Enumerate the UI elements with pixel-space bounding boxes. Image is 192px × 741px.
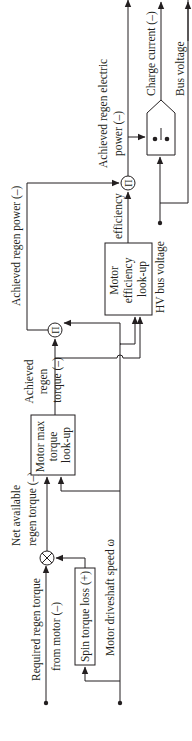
vehicle-regen-braking-block-diagram: Required regen torque from motor (–) Mot… [0,0,192,741]
motor-max-torque-lookup-block: Motor max torque look-up [31,415,75,475]
divide-block [147,100,175,155]
motor-speed-input: Motor driveshaft speed ω [104,323,122,705]
efficiency-label: efficiency [112,193,125,239]
required-regen-torque-input: Required regen torque from motor (–) [30,566,63,705]
product-symbol: Π [123,179,134,186]
charge-current-label: Charge current (–) [145,11,158,96]
achieved-regen-torque-label: Achieved regen torque (–) [23,357,64,404]
spin-torque-loss-block: Spin torque loss (+) [75,568,95,665]
bus-voltage-label: Bus voltage [174,41,187,96]
motor-speed-label: Motor driveshaft speed ω [104,538,117,656]
product-symbol: Π [50,326,61,333]
divide-dot [165,137,170,142]
hv-bus-voltage-label: HV bus voltage [154,241,167,313]
achieved-regen-power-label: Achieved regen power (–) [10,185,23,306]
net-available-torque-label: Net available regen torque (–) [10,472,39,546]
product-operator-electric-power: Π [121,176,135,190]
spin-torque-loss-label: Spin torque loss (+) [79,571,92,662]
divide-dot [153,137,158,142]
motor-efficiency-lookup-block: Motor efficiency look-up [105,243,152,315]
product-operator-power: Π [48,323,62,337]
multiply-operator [40,551,54,565]
achieved-electric-power-label: Achieved regen electric power (–) [97,56,125,168]
